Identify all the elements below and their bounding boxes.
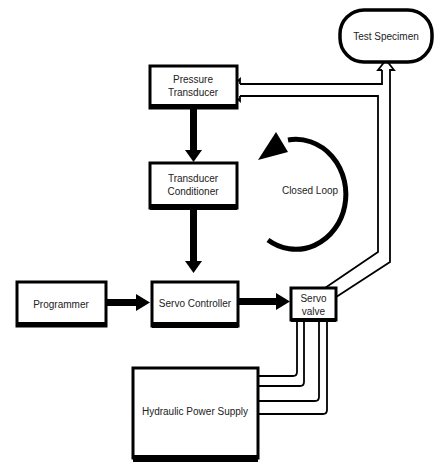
arrow-conditioner-to-controller xyxy=(185,210,202,273)
arrow-programmer-to-controller xyxy=(106,294,150,311)
loop-arrowhead-icon xyxy=(258,132,288,160)
pressure-transducer-line1: Pressure xyxy=(173,74,213,85)
diagram-canvas: Test Specimen Pressure Transducer Transd… xyxy=(0,0,445,469)
node-servo-controller: Servo Controller xyxy=(152,282,238,328)
closed-loop-indicator: Closed Loop xyxy=(258,132,346,249)
node-pressure-transducer: Pressure Transducer xyxy=(150,66,237,109)
programmer-label: Programmer xyxy=(33,299,89,310)
node-programmer: Programmer xyxy=(17,282,106,327)
hollow-arrow-valve-to-specimen xyxy=(228,60,394,301)
servo-valve-line1: Servo xyxy=(300,293,327,304)
node-hydraulic-power-supply: Hydraulic Power Supply xyxy=(133,368,258,462)
servo-controller-label: Servo Controller xyxy=(159,298,232,309)
node-servo-valve: Servo valve xyxy=(291,288,336,322)
closed-loop-label: Closed Loop xyxy=(282,185,339,196)
servo-valve-line2: valve xyxy=(302,306,326,317)
pressure-transducer-line2: Transducer xyxy=(168,87,219,98)
node-transducer-conditioner: Transducer Conditioner xyxy=(150,163,237,210)
hydraulic-lines xyxy=(258,322,327,414)
node-test-specimen: Test Specimen xyxy=(340,10,432,62)
test-specimen-label: Test Specimen xyxy=(353,31,419,42)
arrow-transducer-to-conditioner xyxy=(185,109,202,162)
transducer-conditioner-line2: Conditioner xyxy=(167,186,219,197)
transducer-conditioner-line1: Transducer xyxy=(168,173,219,184)
arrow-controller-to-valve xyxy=(238,293,290,310)
hydraulic-power-supply-label: Hydraulic Power Supply xyxy=(142,406,248,417)
